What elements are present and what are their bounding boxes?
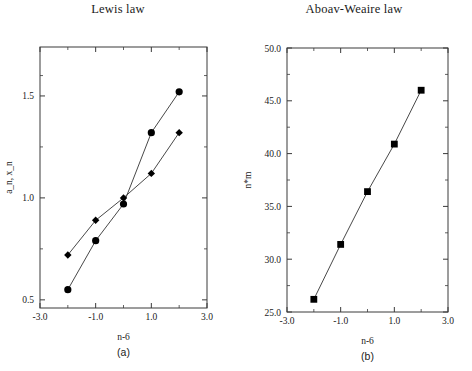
data-point-circle	[176, 88, 183, 95]
y-tick-label: 0.5	[22, 295, 34, 305]
y-tick-label: 35.0	[264, 202, 281, 212]
x-axis-label: n-6	[361, 336, 374, 346]
data-point-square	[418, 87, 425, 94]
plot-area-lewis: -3.0-1.01.03.00.51.01.5n-6(a)a_n, x_n	[0, 0, 236, 371]
series-line-x-n	[68, 133, 179, 255]
y-axis-label: n*m	[243, 171, 253, 189]
y-tick-label: 45.0	[264, 96, 281, 106]
data-point-circle	[64, 286, 71, 293]
data-point-square	[364, 188, 371, 195]
data-point-circle	[148, 129, 155, 136]
data-point-circle	[92, 237, 99, 244]
y-axis-label: a_n, x_n	[4, 161, 14, 194]
x-tick-label: -3.0	[279, 316, 294, 326]
y-tick-label: 40.0	[264, 149, 281, 159]
y-tick-label: 1.0	[22, 193, 34, 203]
panel-lewis: Lewis law -3.0-1.01.03.00.51.01.5n-6(a)a…	[0, 0, 236, 371]
data-point-square	[391, 141, 398, 148]
y-tick-label: 50.0	[264, 44, 281, 54]
panel-caption: (a)	[117, 346, 130, 358]
x-axis-label: n-6	[117, 332, 130, 342]
x-tick-label: -1.0	[88, 312, 103, 322]
y-tick-label: 30.0	[264, 255, 281, 265]
panel-aboav: Aboav-Weaire law -3.0-1.01.03.025.030.03…	[236, 0, 472, 371]
x-tick-label: 1.0	[388, 316, 400, 326]
x-tick-label: 3.0	[201, 312, 213, 322]
y-tick-label: 1.5	[22, 91, 34, 101]
x-tick-label: -1.0	[333, 316, 348, 326]
data-point-square	[337, 241, 344, 248]
y-tick-label: 25.0	[264, 308, 281, 318]
data-point-square	[310, 296, 317, 303]
plot-area-aboav: -3.0-1.01.03.025.030.035.040.045.050.0n-…	[236, 0, 472, 371]
x-tick-label: 1.0	[145, 312, 157, 322]
x-tick-label: -3.0	[32, 312, 47, 322]
data-point-diamond	[175, 129, 182, 136]
panel-caption: (b)	[361, 350, 374, 362]
figure-container: Lewis law -3.0-1.01.03.00.51.01.5n-6(a)a…	[0, 0, 472, 371]
x-tick-label: 3.0	[442, 316, 454, 326]
series-line-a-n	[68, 92, 179, 290]
plot-frame	[40, 47, 207, 308]
